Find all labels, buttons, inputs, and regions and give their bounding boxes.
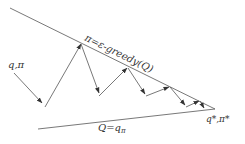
lower-line: [38, 109, 215, 129]
gpi-diagram: q,π π=ε-greedy(Q) q*,π* Q=qπ: [0, 0, 245, 144]
lower-line-label: Q=qπ: [98, 122, 126, 135]
upper-line-label: π=ε-greedy(Q): [82, 31, 155, 74]
end-label: q*,π*: [206, 114, 230, 124]
upper-line: [10, 8, 215, 109]
start-label: q,π: [8, 59, 25, 70]
